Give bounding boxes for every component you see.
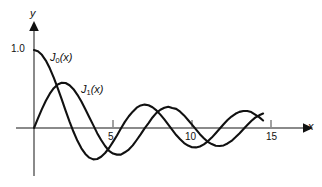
curve-label-j0: J0(x)	[50, 52, 73, 65]
curve-label-j1-arg: (x)	[91, 83, 104, 95]
x-tick-label-5: 5	[108, 132, 114, 142]
x-tick-label-15: 15	[266, 132, 277, 142]
x-tick-label-10: 10	[185, 132, 196, 142]
y-tick-label-1.0: 1.0	[11, 44, 25, 54]
y-axis-arrowhead	[29, 21, 39, 31]
curve-label-j0-arg: (x)	[60, 51, 73, 63]
bessel-function-figure: y x 1.0 5 10 15 J0(x) J1(x)	[0, 0, 322, 187]
x-axis-label: x	[308, 121, 314, 132]
plot-canvas	[0, 0, 322, 187]
curve-label-j1: J1(x)	[81, 84, 104, 97]
y-axis-label: y	[30, 8, 36, 19]
